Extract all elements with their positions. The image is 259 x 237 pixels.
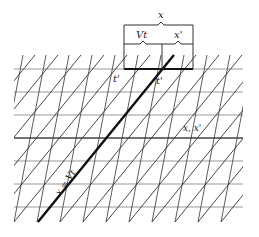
label-t-prime-left: t' xyxy=(113,73,120,84)
spacetime-diagram: x Vt x' t' t' x, x' x = Vt xyxy=(0,0,259,237)
label-x-prime: x' xyxy=(174,29,182,40)
label-x-total: x xyxy=(158,9,164,20)
label-vt: Vt xyxy=(136,29,148,40)
steep-grid-line xyxy=(244,55,259,222)
label-axes-x-xprime: x, x' xyxy=(183,123,201,133)
diagonal-grid-line xyxy=(0,55,12,222)
diagonal-grid-line xyxy=(244,55,259,222)
label-t-prime-right: t' xyxy=(156,75,163,86)
